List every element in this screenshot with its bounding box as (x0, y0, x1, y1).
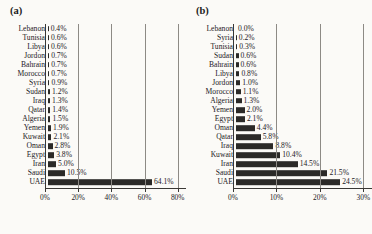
bar-track: 5.8% (236, 133, 372, 142)
x-tick-label: 10% (270, 193, 284, 202)
bar-row: Morocco0.7% (0, 69, 186, 78)
x-tick-label: 20% (313, 193, 327, 202)
bar (236, 107, 245, 113)
bar (48, 170, 65, 176)
bar-row: Yemen2.0% (186, 105, 372, 114)
tick-mark (363, 189, 364, 192)
bar-row: Jordon1.0% (186, 78, 372, 87)
bar (236, 116, 245, 122)
bar (236, 125, 255, 131)
bar-chart-a: Lebanon0.4%Tunisia0.6%Libya0.6%Jordon0.7… (0, 24, 186, 210)
bar-value-label: 0.0% (236, 25, 254, 33)
bar-value-label: 0.6% (49, 43, 67, 51)
bar-value-label: 8.8% (273, 142, 291, 150)
category-label: UAE (186, 178, 236, 186)
bar-value-label: 24.5% (340, 178, 362, 186)
bar-value-label: 1.0% (240, 79, 258, 87)
bar-value-label: 1.3% (50, 97, 68, 105)
bar-track: 0.7% (48, 51, 186, 60)
bar-value-label: 2.1% (245, 115, 263, 123)
category-label: Iran (0, 160, 48, 168)
bar-row: UAE64.1% (0, 178, 186, 187)
category-label: Oman (0, 142, 48, 150)
tick-mark (276, 189, 277, 192)
bar-track: 0.7% (48, 69, 186, 78)
bar-chart-b: Lebanon0.0%Syria0.2%Tunisia0.3%Sudan0.6%… (186, 24, 372, 210)
bar-value-label: 0.4% (49, 25, 67, 33)
bar-track: 1.4% (48, 105, 186, 114)
chart-panel-a: (a) Lebanon0.4%Tunisia0.6%Libya0.6%Jordo… (0, 0, 186, 234)
bar-value-label: 14.5% (298, 160, 320, 168)
bar (236, 134, 261, 140)
bar-value-label: 10.4% (280, 151, 302, 159)
category-label: Jordon (0, 52, 48, 60)
category-label: Iraq (0, 97, 48, 105)
category-label: Tunisia (0, 34, 48, 42)
category-label: Qatar (0, 106, 48, 114)
bar-row: Oman4.4% (186, 124, 372, 133)
x-tick-label: 0% (228, 193, 238, 202)
bar-track: 0.2% (236, 33, 372, 42)
bar-row: Sudan0.6% (186, 51, 372, 60)
bar-track: 0.6% (48, 33, 186, 42)
category-label: Algeria (0, 115, 48, 123)
category-label: Egypt (186, 115, 236, 123)
bar-value-label: 21.5% (327, 169, 349, 177)
x-tick-label: 60% (138, 193, 152, 202)
bar-value-label: 1.4% (50, 106, 68, 114)
bar-row: Jordon0.7% (0, 51, 186, 60)
bar (236, 180, 340, 186)
category-label: Tunisia (186, 43, 236, 51)
bar-track: 24.5% (236, 178, 372, 187)
tick-mark (45, 189, 46, 192)
bar-rows-b: Lebanon0.0%Syria0.2%Tunisia0.3%Sudan0.6%… (186, 24, 372, 188)
category-label: Egypt (0, 151, 48, 159)
category-label: Yemen (0, 124, 48, 132)
tick-mark (320, 189, 321, 192)
bar-row: Sudan1.2% (0, 87, 186, 96)
panel-label-b: (b) (196, 5, 209, 16)
x-tick-label: 0% (40, 193, 50, 202)
bar-value-label: 64.1% (152, 178, 174, 186)
bar-rows-a: Lebanon0.4%Tunisia0.6%Libya0.6%Jordon0.7… (0, 24, 186, 188)
bar-value-label: 1.5% (50, 115, 68, 123)
x-axis-ticks-b: 0%10%20%30% (233, 189, 372, 205)
bar-track: 14.5% (236, 160, 372, 169)
bar (236, 152, 280, 158)
category-label: Bahrain (186, 61, 236, 69)
bar-value-label: 10.5% (65, 169, 87, 177)
bar-value-label: 0.7% (49, 70, 67, 78)
bar-row: Libya0.8% (186, 69, 372, 78)
bar-value-label: 0.7% (49, 61, 67, 69)
tick-mark (233, 189, 234, 192)
category-label: Morocco (186, 88, 236, 96)
bar-row: UAE24.5% (186, 178, 372, 187)
bar-track: 0.7% (48, 60, 186, 69)
bar-value-label: 2.1% (51, 133, 69, 141)
bar-row: Tunisia0.3% (186, 42, 372, 51)
bar-track: 8.8% (236, 142, 372, 151)
category-label: Libya (186, 70, 236, 78)
category-label: Yemen (186, 106, 236, 114)
chart-panel-b: (b) Lebanon0.0%Syria0.2%Tunisia0.3%Sudan… (186, 0, 372, 234)
bar-row: Tunisia0.6% (0, 33, 186, 42)
bar (236, 170, 327, 176)
bar-row: Lebanon0.0% (186, 24, 372, 33)
bar-value-label: 0.6% (239, 52, 257, 60)
category-label: Kuwait (0, 133, 48, 141)
bar-row: Lebanon0.4% (0, 24, 186, 33)
category-label: Iraq (186, 142, 236, 150)
bar-track: 64.1% (48, 178, 186, 187)
category-label: Kuwait (186, 151, 236, 159)
bar (236, 161, 298, 167)
bar-value-label: 1.2% (50, 88, 68, 96)
bar-value-label: 0.6% (49, 34, 67, 42)
category-label: Iran (186, 160, 236, 168)
x-tick-label: 20% (71, 193, 85, 202)
bar (48, 180, 152, 186)
bar-track: 0.9% (48, 78, 186, 87)
x-tick-label: 80% (171, 193, 185, 202)
category-label: Bahrain (0, 61, 48, 69)
bar-value-label: 2.0% (245, 106, 263, 114)
category-label: Saudi (186, 169, 236, 177)
